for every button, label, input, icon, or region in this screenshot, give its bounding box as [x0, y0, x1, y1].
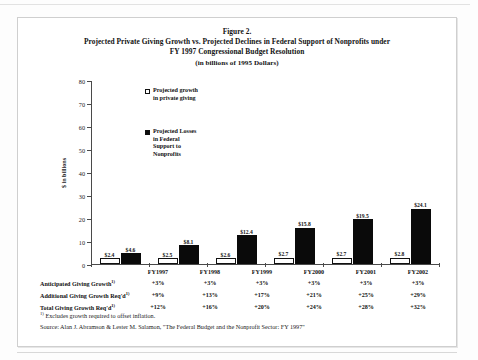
bar-group: $2.6$12.4 — [207, 81, 265, 264]
bar-private-giving[interactable]: $2.7 — [274, 258, 294, 264]
table-cell: +29% — [392, 289, 444, 301]
table-cell: +21% — [288, 289, 340, 301]
bar-group: $2.4$4.6 — [91, 81, 149, 264]
table-cell: +3% — [236, 277, 288, 289]
page-top-rule — [0, 4, 470, 5]
table-corner-cell — [40, 268, 132, 277]
table-cell: +13% — [184, 289, 236, 301]
footnote-marker: 1) — [111, 279, 115, 284]
bar-group: $2.7$19.5 — [323, 81, 381, 264]
table-column-header: FY1997 — [132, 268, 184, 277]
table-cell: +3% — [132, 277, 184, 289]
figure-label: Figure 2. — [18, 27, 456, 37]
table-row: Additional Giving Growth Req'd1)+9%+13%+… — [40, 289, 444, 301]
bar-group: $2.7$15.8 — [265, 81, 323, 264]
y-axis-tick-label: 40 — [79, 170, 85, 177]
table-column-header: FY2002 — [392, 268, 444, 277]
bar-federal-losses[interactable]: $4.6 — [121, 253, 141, 264]
table-column-header: FY1998 — [184, 268, 236, 277]
table-body: Anticipated Giving Growth1)+3%+3%+3%+3%+… — [40, 277, 444, 313]
bar-value-label: $2.7 — [337, 251, 347, 257]
bar-federal-losses[interactable]: $19.5 — [353, 219, 373, 264]
table-row: Anticipated Giving Growth1)+3%+3%+3%+3%+… — [40, 277, 444, 289]
table-cell: +3% — [288, 277, 340, 289]
x-axis-tick-mark — [323, 263, 324, 267]
figure-subtitle: (in billions of 1995 Dollars) — [18, 58, 456, 68]
y-axis-tick-label: 70 — [79, 101, 85, 108]
table-row-label: Additional Giving Growth Req'd1) — [40, 289, 132, 301]
bar-private-giving[interactable]: $2.8 — [390, 258, 410, 264]
y-axis-tick-label: 80 — [79, 78, 85, 85]
x-axis-tick-mark — [91, 263, 92, 267]
table-cell: +3% — [340, 277, 392, 289]
bar-value-label: $15.8 — [298, 221, 311, 227]
source-line: Source: Alan J. Abramson & Lester M. Sal… — [40, 322, 450, 332]
y-axis-tick-label: 10 — [79, 239, 85, 246]
table-cell: +3% — [184, 277, 236, 289]
figure-title-line-1: Projected Private Giving Growth vs. Proj… — [18, 37, 456, 47]
y-axis-tick-label: 30 — [79, 193, 85, 200]
bar-value-label: $2.5 — [163, 252, 173, 258]
footnote-marker: 1) — [111, 303, 115, 308]
table-column-header: FY1999 — [236, 268, 288, 277]
footnote: 1) Excludes growth required to offset in… — [40, 309, 450, 321]
footnote-text: Excludes growth required to offset infla… — [45, 312, 155, 319]
table-row-label-text: Additional Giving Growth Req'd — [40, 293, 126, 299]
bar-value-label: $19.5 — [356, 213, 369, 219]
x-axis-tick-mark — [207, 263, 208, 267]
x-axis-tick-mark — [265, 263, 266, 267]
bar-value-label: $2.4 — [105, 252, 115, 258]
bar-private-giving[interactable]: $2.4 — [100, 258, 120, 264]
y-axis-tick-label: 50 — [79, 147, 85, 154]
footnote-marker: 1) — [126, 291, 130, 296]
bar-federal-losses[interactable]: $12.4 — [237, 235, 257, 264]
bar-private-giving[interactable]: $2.5 — [158, 258, 178, 264]
chart-plot-area: $ in billions 01020304050607080 Projecte… — [91, 81, 439, 265]
x-axis-tick-mark — [381, 263, 382, 267]
bar-value-label: $2.6 — [221, 252, 231, 258]
y-axis-tick-label: 60 — [79, 124, 85, 131]
table-row-label-text: Anticipated Giving Growth — [40, 281, 111, 287]
bar-federal-losses[interactable]: $24.1 — [411, 209, 431, 264]
bar-private-giving[interactable]: $2.7 — [332, 258, 352, 264]
table-cell: +9% — [132, 289, 184, 301]
table-cell: +17% — [236, 289, 288, 301]
table-cell: +25% — [340, 289, 392, 301]
footnote-marker: 1) — [40, 311, 44, 316]
x-axis-tick-mark — [149, 263, 150, 267]
bar-value-label: $2.8 — [395, 251, 405, 257]
figure-title-line-2: FY 1997 Congressional Budget Resolution — [18, 47, 456, 57]
bar-federal-losses[interactable]: $15.8 — [295, 228, 315, 264]
table-header-row: FY1997FY1998FY1999FY2000FY2001FY2002 — [40, 268, 444, 277]
table-column-header: FY2001 — [340, 268, 392, 277]
bar-value-label: $4.6 — [126, 247, 136, 253]
bar-value-label: $2.7 — [279, 251, 289, 257]
bar-group: $2.5$8.1 — [149, 81, 207, 264]
bar-value-label: $8.1 — [184, 239, 194, 245]
y-axis-tick-label: 20 — [79, 216, 85, 223]
figure-title-block: Figure 2. Projected Private Giving Growt… — [18, 27, 456, 68]
scanned-page: Figure 2. Projected Private Giving Growt… — [0, 0, 478, 360]
growth-table-grid: FY1997FY1998FY1999FY2000FY2001FY2002 Ant… — [40, 268, 444, 313]
x-axis-tick-mark — [439, 263, 440, 267]
table-cell: +3% — [392, 277, 444, 289]
y-axis-title: $ in billions — [61, 158, 67, 188]
bar-group: $2.8$24.1 — [381, 81, 439, 264]
bar-private-giving[interactable]: $2.6 — [216, 258, 236, 264]
bar-federal-losses[interactable]: $8.1 — [179, 245, 199, 264]
page-bottom-rule — [17, 352, 457, 353]
figure-notes: 1) Excludes growth required to offset in… — [40, 309, 450, 333]
bar-value-label: $12.4 — [240, 229, 253, 235]
table-row-label: Anticipated Giving Growth1) — [40, 277, 132, 289]
bar-value-label: $24.1 — [414, 202, 427, 208]
table-column-header: FY2000 — [288, 268, 340, 277]
growth-table: FY1997FY1998FY1999FY2000FY2001FY2002 Ant… — [40, 268, 444, 313]
figure-frame: Figure 2. Projected Private Giving Growt… — [17, 17, 457, 347]
